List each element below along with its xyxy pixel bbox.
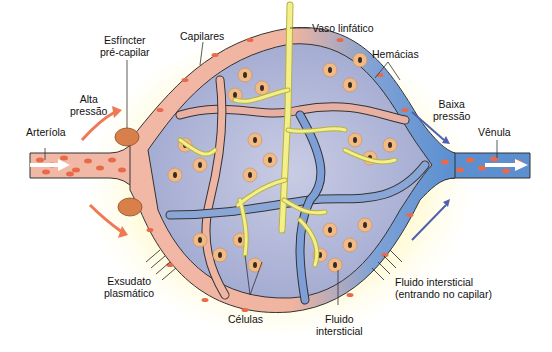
label-esfincter-pre-capilar: Esfíncter pré-capilar	[100, 34, 150, 58]
sphincter-top	[115, 128, 139, 146]
label-exsudato-plasmatico: Exsudato plasmático	[104, 275, 154, 299]
label-fluido-intersticial: Fluido intersticial	[316, 313, 363, 337]
label-vaso-linfatico: Vaso linfático	[312, 22, 374, 34]
sphincter-bottom	[118, 198, 142, 216]
label-hemacias: Hemácias	[372, 48, 419, 60]
label-arteriola: Arteríola	[26, 126, 66, 138]
label-capilares: Capilares	[180, 30, 224, 42]
label-alta-pressao: Alta pressão	[70, 93, 107, 117]
label-celulas: Células	[228, 313, 263, 325]
label-fluido-entrando-no-capilar: Fluido intersticial (entrando no capilar…	[395, 276, 492, 300]
label-venula: Vênula	[478, 126, 511, 138]
capillary-bed-diagram: Esfíncter pré-capilar Capilares Vaso lin…	[0, 0, 552, 352]
label-baixa-pressao: Baixa pressão	[433, 98, 470, 122]
